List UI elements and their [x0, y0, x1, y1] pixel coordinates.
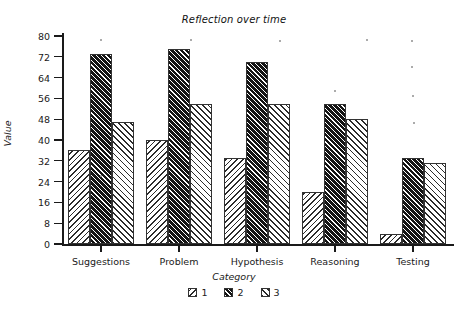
speckle [279, 40, 281, 42]
speckle [413, 122, 415, 124]
x-axis-tick [100, 245, 101, 252]
legend-swatch-icon [224, 288, 233, 297]
bar [90, 54, 112, 244]
bar [68, 150, 90, 244]
bar [302, 192, 324, 244]
bar [146, 140, 168, 244]
y-axis-tick-label: 8 [4, 218, 50, 229]
legend-entry[interactable]: 2 [224, 288, 243, 298]
chart-title: Reflection over time [0, 14, 468, 25]
y-axis-tick-label: 32 [4, 155, 50, 166]
x-axis-tick-label: Suggestions [72, 256, 130, 267]
x-axis-tick-label: Hypothesis [231, 256, 284, 267]
bar [380, 234, 402, 244]
bar [224, 158, 246, 244]
legend-label: 1 [201, 288, 207, 298]
legend-label: 3 [274, 288, 280, 298]
bar [424, 163, 446, 244]
y-axis-tick-label: 16 [4, 197, 50, 208]
x-axis-tick [256, 245, 257, 252]
speckle [100, 175, 102, 177]
legend-entry[interactable]: 1 [188, 288, 207, 298]
legend-swatch-icon [188, 288, 197, 297]
bar [346, 119, 368, 244]
speckle [190, 39, 192, 41]
y-axis-tick-label: 80 [4, 31, 50, 42]
chart-figure: Reflection over time 0816243240485664728… [0, 0, 468, 313]
x-axis-tick-label: Testing [396, 256, 429, 267]
bar [168, 49, 190, 244]
speckle [334, 90, 336, 92]
x-axis-title: Category [0, 271, 468, 282]
y-axis-tick-label: 64 [4, 72, 50, 83]
bar [324, 104, 346, 244]
chart-legend: 123 [0, 288, 468, 298]
y-axis-tick-label: 24 [4, 176, 50, 187]
bar [402, 158, 424, 244]
legend-swatch-icon [261, 288, 270, 297]
plot-area [62, 36, 452, 244]
y-axis-tick-label: 56 [4, 93, 50, 104]
speckle [411, 66, 413, 68]
x-axis-tick [178, 245, 179, 252]
x-axis-tick [412, 245, 413, 252]
speckle [366, 39, 368, 41]
bar [112, 122, 134, 244]
y-axis-tick-label: 72 [4, 51, 50, 62]
y-axis-title: Value [2, 120, 13, 146]
legend-entry[interactable]: 3 [261, 288, 280, 298]
speckle [412, 95, 414, 97]
bar [246, 62, 268, 244]
legend-label: 2 [237, 288, 243, 298]
x-axis-tick-label: Problem [160, 256, 199, 267]
y-axis-tick-labels: 08162432404856647280 [0, 0, 50, 313]
speckle [411, 40, 413, 42]
speckle [100, 39, 102, 41]
x-axis-line [62, 244, 454, 246]
bar [190, 104, 212, 244]
x-axis-tick-label: Reasoning [310, 256, 359, 267]
bar [268, 104, 290, 244]
y-axis-tick-label: 0 [4, 239, 50, 250]
x-axis-tick [334, 245, 335, 252]
